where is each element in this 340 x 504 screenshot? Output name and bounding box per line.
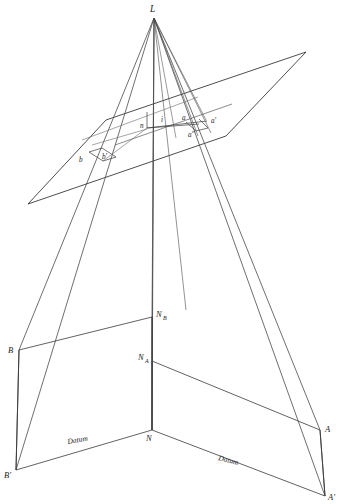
right-datum-plane <box>152 361 325 496</box>
label-datum-left: Datum <box>66 433 89 446</box>
ray-L-to-Aprime <box>154 18 325 496</box>
label-ground-NB: N B <box>155 309 167 321</box>
label-ground-NA: N A <box>137 352 149 364</box>
ray-L-to-A <box>154 18 320 430</box>
diagram-canvas: L n i a a' a″ b b' B B' A A' N N B N A D… <box>0 0 340 504</box>
ray-L-to-Bprime <box>16 18 154 470</box>
label-image-point-b-prime: b' <box>102 153 108 161</box>
label-image-point-a: a <box>182 114 186 122</box>
label-ground-nadir-N: N <box>145 433 153 443</box>
projection-diagram: L n i a a' a″ b b' B B' A A' N N B N A D… <box>0 0 340 504</box>
ray-L-to-B <box>19 18 154 350</box>
label-ground-point-B: B <box>8 345 13 355</box>
label-datum-right: Datum <box>217 453 241 467</box>
label-image-point-a-prime: a' <box>211 117 217 125</box>
label-image-point-b: b <box>79 156 83 164</box>
ray-L-to-adprime <box>154 18 206 120</box>
image-detail-right <box>147 112 208 131</box>
label-ground-point-A-prime: A' <box>327 492 335 502</box>
datum-vertical-edges <box>16 350 325 496</box>
label-ground-NB-subscript: B <box>163 315 167 321</box>
datum-planes <box>16 317 325 496</box>
label-image-point-a-double-prime: a″ <box>188 131 196 139</box>
label-exposure-station-L: L <box>149 4 155 14</box>
label-ground-NA-subscript: A <box>144 358 149 364</box>
projection-ray-bundle <box>16 18 325 496</box>
label-ground-NB-base: N <box>155 309 163 319</box>
label-ground-point-B-prime: B' <box>4 470 11 480</box>
label-image-point-i: i <box>161 116 163 124</box>
label-ground-NA-base: N <box>137 352 145 362</box>
label-ground-point-A: A <box>324 424 331 434</box>
image-plane-outline <box>28 52 306 204</box>
left-datum-plane <box>16 317 152 470</box>
label-image-point-n: n <box>140 122 144 130</box>
